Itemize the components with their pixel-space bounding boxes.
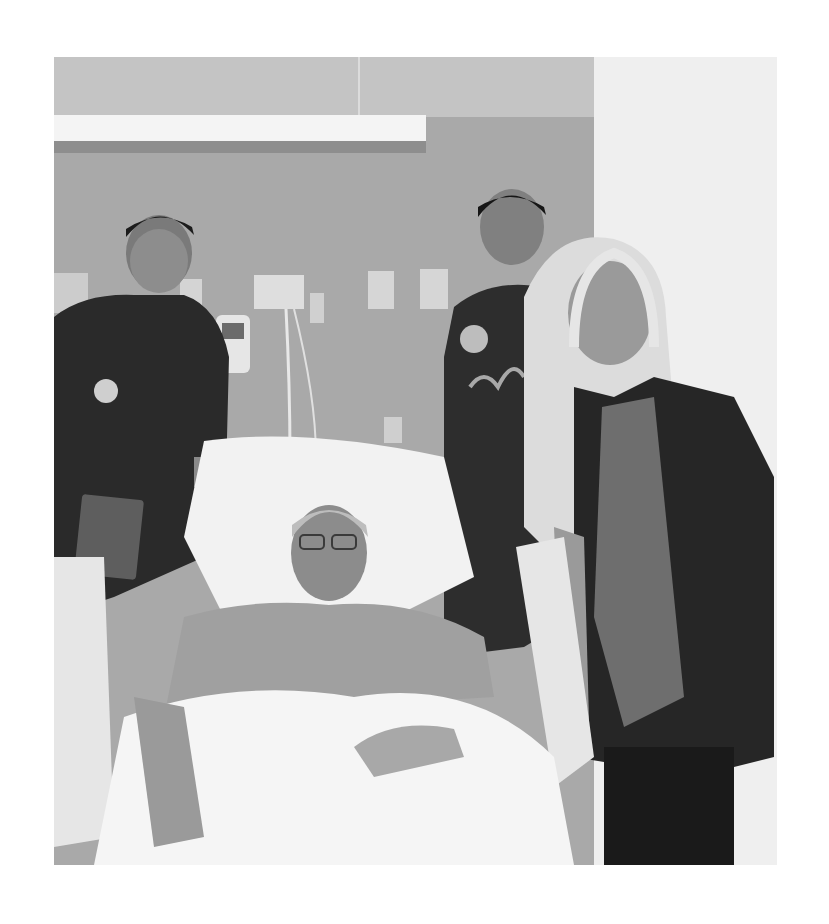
light-fixture <box>54 115 426 141</box>
upper-wall <box>54 57 594 117</box>
wall-outlet <box>420 269 448 309</box>
bed-rail-left <box>54 557 114 847</box>
hospital-photo <box>54 57 777 865</box>
wall-outlet <box>310 293 324 323</box>
wall-socket <box>384 417 402 443</box>
photo-illustration <box>54 57 777 865</box>
monitor-screen <box>222 323 244 339</box>
light-fixture-shadow <box>54 141 426 153</box>
wall-outlet <box>368 271 394 309</box>
wall-outlet <box>254 275 304 309</box>
